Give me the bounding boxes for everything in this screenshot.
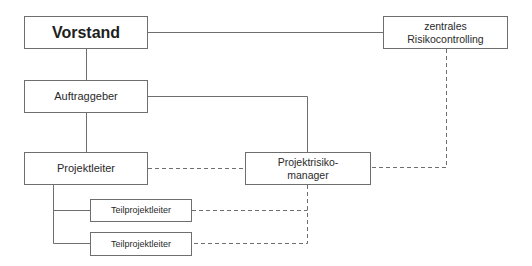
edge-projektleiter-tpl: [54, 185, 91, 244]
node-projektleiter: Projektleiter: [24, 152, 148, 185]
edge-auftraggeber-prm: [148, 97, 308, 153]
node-teilprojektleiter-2: Teilprojektleiter: [90, 232, 192, 256]
node-label: Teilprojektleiter: [111, 239, 171, 250]
node-label: Vorstand: [52, 23, 120, 42]
node-label: zentrales Risikocontrolling: [407, 20, 483, 45]
node-label-line2: Risikocontrolling: [407, 33, 483, 45]
node-label: Projektrisiko- manager: [278, 156, 339, 181]
node-auftraggeber: Auftraggeber: [24, 80, 148, 113]
node-label: Auftraggeber: [54, 90, 118, 103]
node-label-line2: manager: [287, 169, 328, 181]
edge-zrc-prm: [371, 49, 447, 168]
node-teilprojektleiter-1: Teilprojektleiter: [90, 199, 192, 222]
node-label-line1: zentrales: [424, 20, 467, 32]
node-label: Teilprojektleiter: [111, 205, 171, 216]
node-zentrales-risikocontrolling: zentrales Risikocontrolling: [383, 16, 508, 49]
edge-prm-tpl: [192, 185, 308, 244]
node-projektrisikomanager: Projektrisiko- manager: [245, 152, 371, 185]
node-label-line1: Projektrisiko-: [278, 156, 339, 168]
node-label: Projektleiter: [57, 162, 115, 175]
node-vorstand: Vorstand: [24, 16, 148, 49]
